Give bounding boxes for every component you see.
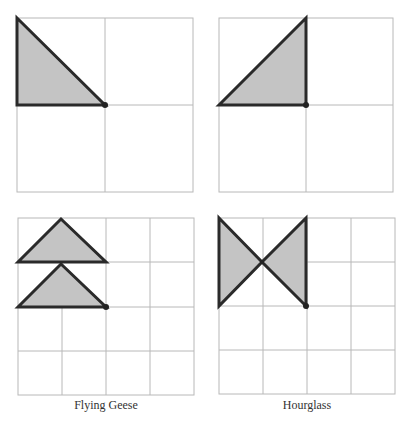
caption-flying-geese: Flying Geese	[16, 398, 196, 413]
panel-top-right	[219, 18, 393, 192]
vertex-dot	[103, 304, 109, 310]
panel-top-left	[17, 18, 193, 192]
triangle-shape	[17, 18, 105, 105]
panel-flying-geese	[18, 218, 194, 395]
panel-hourglass	[219, 218, 395, 394]
caption-hourglass: Hourglass	[217, 398, 397, 413]
vertex-dot	[303, 303, 309, 309]
vertex-dot	[303, 102, 309, 108]
vertex-dot	[102, 102, 108, 108]
quilt-diagram	[0, 0, 409, 424]
hourglass-triangle-right	[262, 218, 306, 306]
goose-triangle-bottom	[18, 264, 106, 307]
triangle-shape	[219, 18, 306, 105]
goose-triangle-top	[18, 219, 106, 262]
hourglass-triangle-left	[219, 218, 262, 306]
center-dot	[260, 260, 264, 264]
